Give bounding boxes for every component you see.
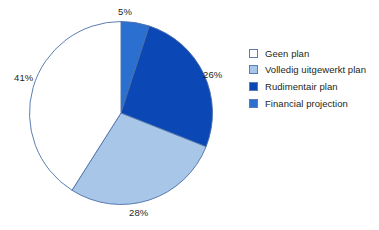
pie-slices-group [29,22,212,205]
slice-label-41-percent: 41% [14,72,33,83]
pie-svg [0,0,240,230]
legend-item-label: Volledig uitgewerkt plan [265,64,366,75]
slice-label-28-percent: 28% [129,207,148,218]
slice-label-5-percent: 5% [118,6,132,17]
legend-item[interactable]: Rudimentair plan [249,78,377,95]
legend-item[interactable]: Volledig uitgewerkt plan [249,62,377,79]
legend-item[interactable]: Geen plan [249,45,377,62]
legend-swatch-icon [249,99,258,108]
pie-chart-figure: 5% 26% 28% 41% Geen planVolledig uitgewe… [0,0,379,230]
legend-item[interactable]: Financial projection [249,95,377,112]
legend-swatch-icon [249,65,258,74]
legend-item-label: Rudimentair plan [265,81,338,92]
legend-swatch-icon [249,82,258,91]
pie-plot-area: 5% 26% 28% 41% [0,0,240,230]
chart-legend: Geen planVolledig uitgewerkt planRudimen… [249,45,377,111]
legend-swatch-icon [249,49,258,58]
slice-label-26-percent: 26% [203,69,222,80]
legend-item-label: Financial projection [265,98,348,109]
legend-item-label: Geen plan [265,48,309,59]
